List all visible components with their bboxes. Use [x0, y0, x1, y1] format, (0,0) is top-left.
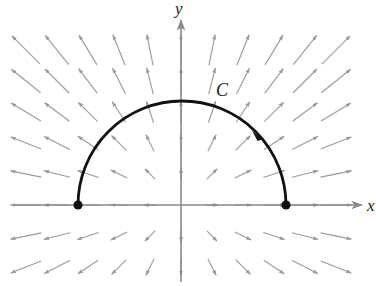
field-arrow-icon: [235, 232, 251, 240]
field-arrow-icon: [44, 171, 70, 178]
field-arrow-icon: [45, 103, 70, 122]
field-arrow-icon: [292, 171, 318, 178]
field-arrow-icon: [11, 233, 42, 239]
field-arrow-icon: [321, 261, 351, 273]
field-arrow-icon: [265, 35, 283, 65]
field-arrow-icon: [321, 103, 351, 121]
field-arrow-icon: [237, 68, 250, 94]
field-arrow-icon: [293, 35, 316, 64]
field-arrow-icon: [77, 232, 98, 239]
field-arrow-icon: [263, 232, 284, 239]
field-arrow-icon: [113, 68, 126, 94]
field-arrow-icon: [146, 135, 154, 151]
field-arrow-icon: [11, 69, 40, 92]
field-arrow-icon: [145, 169, 155, 179]
curve-c: [78, 101, 286, 205]
field-arrow-icon: [146, 259, 154, 275]
field-arrow-icon: [11, 137, 41, 149]
field-arrow-icon: [78, 260, 98, 274]
x-axis-label: x: [366, 196, 375, 215]
field-arrow-icon: [12, 36, 40, 64]
field-arrow-icon: [45, 69, 69, 93]
field-arrow-icon: [265, 69, 284, 94]
field-arrow-icon: [264, 260, 284, 274]
field-arrow-icon: [292, 261, 318, 274]
field-arrow-icon: [207, 169, 217, 179]
field-arrow-icon: [321, 171, 352, 177]
field-arrow-icon: [207, 231, 217, 241]
field-arrow-icon: [79, 35, 97, 65]
field-arrow-icon: [208, 259, 216, 275]
field-arrow-icon: [111, 170, 127, 178]
curve-end-point: [73, 200, 82, 209]
field-arrow-icon: [44, 233, 70, 240]
field-arrow-icon: [237, 35, 249, 65]
y-axis-label: y: [173, 0, 183, 18]
field-arrow-icon: [112, 136, 127, 151]
field-arrow-icon: [11, 261, 41, 273]
field-arrow-icon: [322, 36, 350, 64]
field-arrow-icon: [209, 68, 216, 94]
field-arrow-icon: [321, 137, 351, 149]
field-arrow-icon: [111, 232, 127, 240]
field-arrow-icon: [78, 102, 97, 121]
field-arrow-icon: [236, 136, 251, 151]
field-arrow-icon: [209, 35, 215, 66]
field-arrow-icon: [44, 261, 70, 274]
field-arrow-icon: [292, 137, 318, 150]
field-arrow-icon: [147, 35, 153, 66]
field-arrow-icon: [293, 69, 317, 93]
curve-start-point: [281, 200, 290, 209]
field-arrow-icon: [45, 35, 68, 64]
field-arrow-icon: [292, 233, 318, 240]
field-arrow-icon: [44, 137, 70, 150]
field-arrow-icon: [264, 102, 283, 121]
field-arrow-icon: [147, 68, 154, 94]
field-arrow-icon: [208, 135, 216, 151]
field-arrow-icon: [321, 233, 352, 239]
field-arrow-icon: [112, 260, 127, 275]
vector-field-diagram: x y C: [0, 0, 376, 286]
field-arrow-icon: [321, 69, 350, 92]
field-arrow-icon: [145, 231, 155, 241]
field-arrow-icon: [236, 260, 251, 275]
field-arrow-icon: [11, 171, 42, 177]
field-arrow-icon: [293, 103, 318, 122]
field-arrow-icon: [79, 69, 98, 94]
curve-label: C: [216, 80, 229, 100]
field-arrow-icon: [113, 35, 125, 65]
field-arrow-icon: [235, 170, 251, 178]
field-arrow-icon: [11, 103, 41, 121]
